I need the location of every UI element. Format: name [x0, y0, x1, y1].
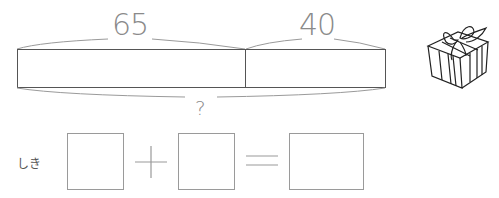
left-segment-label: 65	[112, 10, 148, 40]
plus-sign	[134, 145, 168, 179]
right-segment-label: 40	[299, 10, 335, 40]
equals-sign	[245, 153, 279, 169]
answer-box-sum[interactable]	[289, 133, 364, 190]
answer-box-addend-2[interactable]	[178, 133, 235, 190]
equation-label: しき	[17, 154, 41, 171]
tape-bar	[18, 50, 386, 88]
total-unknown-label: ?	[195, 98, 206, 118]
answer-box-addend-1[interactable]	[67, 133, 124, 190]
gift-box-icon	[420, 18, 495, 90]
